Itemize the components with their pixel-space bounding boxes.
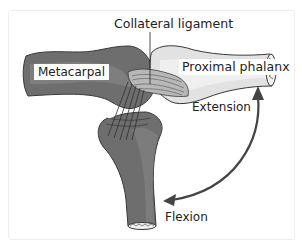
label-extension: Extension — [192, 100, 251, 114]
flexed-bone — [98, 112, 162, 230]
label-proximal-phalanx: Proximal phalanx — [179, 59, 293, 75]
label-metacarpal: Metacarpal — [34, 64, 109, 80]
arrow-head-extension-icon — [252, 86, 264, 100]
arrow-head-flexion-icon — [163, 194, 176, 206]
label-flexion: Flexion — [165, 210, 208, 224]
mcp-joint-diagram — [0, 0, 302, 250]
label-collateral-ligament: Collateral ligament — [114, 17, 233, 31]
